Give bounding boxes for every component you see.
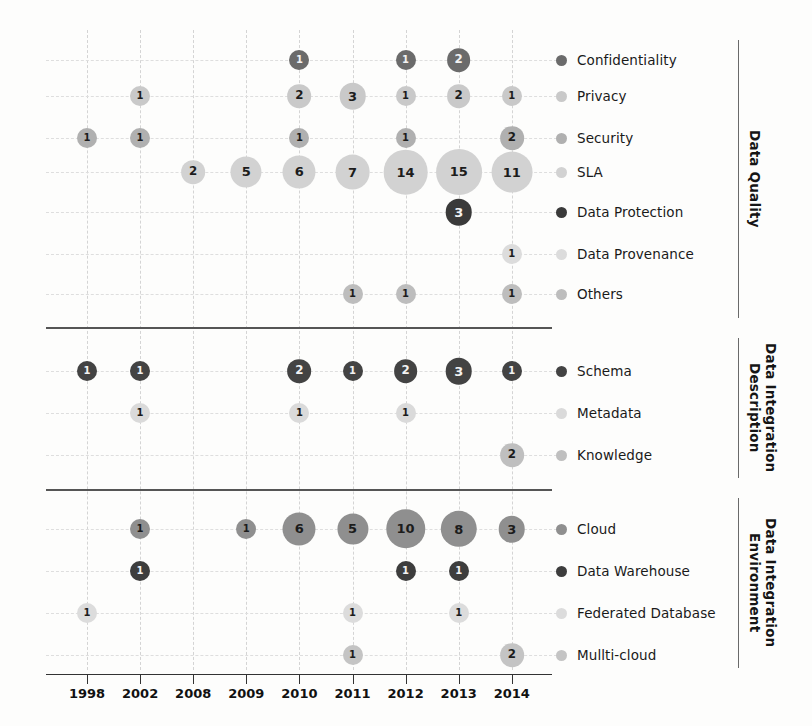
legend-item-schema[interactable]: Schema: [556, 360, 632, 382]
bubble-mullti-cloud-2014[interactable]: 2: [500, 643, 524, 667]
bubble-privacy-2011[interactable]: 3: [339, 83, 366, 110]
bubble-schema-1998[interactable]: 1: [77, 361, 97, 381]
bubble-cloud-2012[interactable]: 10: [386, 509, 425, 548]
bubble-sla-2014[interactable]: 11: [491, 152, 532, 193]
bubble-data-warehouse-2012[interactable]: 1: [396, 561, 416, 581]
group-bracket: [738, 40, 739, 318]
legend-label: Privacy: [577, 88, 627, 104]
legend-item-knowledge[interactable]: Knowledge: [556, 444, 652, 466]
legend-dot-icon: [556, 524, 567, 535]
legend-item-confidentiality[interactable]: Confidentiality: [556, 49, 677, 71]
bubble-security-1998[interactable]: 1: [77, 128, 97, 148]
bubble-others-2011[interactable]: 1: [343, 284, 363, 304]
x-axis-tick: [353, 675, 354, 684]
bubble-schema-2013[interactable]: 3: [445, 358, 472, 385]
bubble-mullti-cloud-2011[interactable]: 1: [343, 645, 363, 665]
legend-item-federated-database[interactable]: Federated Database: [556, 602, 716, 624]
legend: ConfidentialityPrivacySecuritySLAData Pr…: [556, 30, 746, 670]
bubble-schema-2012[interactable]: 2: [394, 359, 418, 383]
legend-item-metadata[interactable]: Metadata: [556, 402, 642, 424]
bubble-sla-2010[interactable]: 6: [283, 155, 316, 188]
legend-dot-icon: [556, 249, 567, 260]
bubble-privacy-2014[interactable]: 1: [502, 86, 522, 106]
legend-label: Schema: [577, 363, 632, 379]
legend-item-privacy[interactable]: Privacy: [556, 85, 627, 107]
x-axis-label-2012: 2012: [388, 686, 424, 701]
bubble-privacy-2012[interactable]: 1: [396, 86, 416, 106]
bubble-federated-database-2011[interactable]: 1: [343, 603, 363, 623]
group-title-data-integration-environment: Data Integration Environment: [744, 498, 778, 668]
bubble-confidentiality-2013[interactable]: 2: [447, 48, 471, 72]
legend-item-cloud[interactable]: Cloud: [556, 518, 616, 540]
bubble-knowledge-2014[interactable]: 2: [500, 443, 524, 467]
bubble-sla-2011[interactable]: 7: [335, 155, 370, 190]
bubble-security-2010[interactable]: 1: [289, 128, 309, 148]
group-bracket: [738, 338, 739, 478]
bubble-cloud-2014[interactable]: 3: [499, 516, 526, 543]
plot-area: 1121231211111225671415113111111212311112…: [46, 30, 546, 670]
legend-label: Cloud: [577, 521, 616, 537]
bubble-metadata-2010[interactable]: 1: [289, 403, 309, 423]
bubble-schema-2014[interactable]: 1: [502, 361, 522, 381]
legend-dot-icon: [556, 650, 567, 661]
bubble-sla-2008[interactable]: 2: [181, 160, 205, 184]
x-axis-tick: [140, 675, 141, 684]
horizontal-gridline: [46, 613, 562, 614]
legend-item-data-warehouse[interactable]: Data Warehouse: [556, 560, 690, 582]
horizontal-gridline: [46, 294, 562, 295]
section-divider: [46, 327, 552, 329]
legend-label: SLA: [577, 164, 603, 180]
bubble-cloud-2011[interactable]: 5: [337, 513, 368, 544]
bubble-schema-2011[interactable]: 1: [343, 361, 363, 381]
bubble-sla-2013[interactable]: 15: [436, 149, 482, 195]
x-axis-tick: [512, 675, 513, 684]
bubble-data-provenance-2014[interactable]: 1: [502, 244, 522, 264]
vertical-gridline: [193, 30, 194, 670]
bubble-others-2014[interactable]: 1: [502, 284, 522, 304]
bubble-confidentiality-2012[interactable]: 1: [396, 50, 416, 70]
bubble-others-2012[interactable]: 1: [396, 284, 416, 304]
bubble-metadata-2002[interactable]: 1: [130, 403, 150, 423]
legend-item-data-protection[interactable]: Data Protection: [556, 201, 683, 223]
bubble-sla-2009[interactable]: 5: [231, 156, 262, 187]
legend-item-others[interactable]: Others: [556, 283, 623, 305]
bubble-federated-database-1998[interactable]: 1: [77, 603, 97, 623]
horizontal-gridline: [46, 212, 562, 213]
bubble-privacy-2013[interactable]: 2: [447, 84, 471, 108]
legend-label: Metadata: [577, 405, 642, 421]
bubble-data-protection-2013[interactable]: 3: [445, 199, 472, 226]
x-axis-label-2013: 2013: [441, 686, 477, 701]
bubble-data-warehouse-2013[interactable]: 1: [449, 561, 469, 581]
legend-dot-icon: [556, 91, 567, 102]
x-axis-label-2010: 2010: [281, 686, 317, 701]
bubble-cloud-2013[interactable]: 8: [440, 511, 476, 547]
x-axis-label-1998: 1998: [69, 686, 105, 701]
legend-item-data-provenance[interactable]: Data Provenance: [556, 243, 694, 265]
x-axis-label-2008: 2008: [175, 686, 211, 701]
legend-dot-icon: [556, 289, 567, 300]
bubble-cloud-2002[interactable]: 1: [130, 519, 150, 539]
bubble-schema-2010[interactable]: 2: [288, 359, 312, 383]
bubble-security-2014[interactable]: 2: [500, 126, 524, 150]
section-divider: [46, 489, 552, 491]
vertical-gridline: [353, 30, 354, 670]
bubble-security-2012[interactable]: 1: [396, 128, 416, 148]
legend-item-security[interactable]: Security: [556, 127, 633, 149]
bubble-confidentiality-2010[interactable]: 1: [289, 50, 309, 70]
legend-item-mullti-cloud[interactable]: Mullti-cloud: [556, 644, 656, 666]
bubble-federated-database-2013[interactable]: 1: [449, 603, 469, 623]
bubble-cloud-2010[interactable]: 6: [283, 512, 316, 545]
bubble-privacy-2002[interactable]: 1: [130, 86, 150, 106]
bubble-sla-2012[interactable]: 14: [383, 150, 428, 195]
legend-label: Data Warehouse: [577, 563, 690, 579]
bubble-security-2002[interactable]: 1: [130, 128, 150, 148]
bubble-schema-2002[interactable]: 1: [130, 361, 150, 381]
legend-item-sla[interactable]: SLA: [556, 161, 603, 183]
bubble-cloud-2009[interactable]: 1: [236, 519, 256, 539]
x-axis-tick: [459, 675, 460, 684]
bubble-metadata-2012[interactable]: 1: [396, 403, 416, 423]
vertical-gridline: [299, 30, 300, 670]
bubble-privacy-2010[interactable]: 2: [288, 84, 312, 108]
legend-label: Security: [577, 130, 633, 146]
bubble-data-warehouse-2002[interactable]: 1: [130, 561, 150, 581]
